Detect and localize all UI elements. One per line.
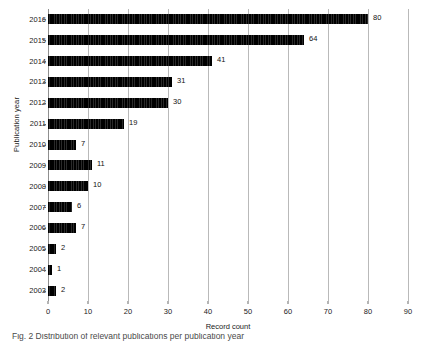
bar-row: 64	[48, 30, 408, 51]
bar-2008	[48, 181, 88, 191]
x-tick-mark-90	[408, 301, 409, 304]
y-tick-2010: 2010	[0, 134, 46, 155]
bar-row: 7	[48, 218, 408, 239]
x-tick-mark-70	[328, 301, 329, 304]
bar-2012	[48, 98, 168, 108]
bar-value-label-2015: 64	[309, 34, 317, 43]
bar-2004	[48, 265, 52, 275]
y-tick-mark-2016	[43, 19, 46, 20]
bar-row: 2	[48, 238, 408, 259]
bar-value-label-2012: 30	[173, 97, 181, 106]
bar-value-label-2006: 7	[81, 222, 85, 231]
gridline-90	[408, 9, 409, 301]
bar-value-label-2003: 2	[61, 285, 65, 294]
x-tick-mark-30	[168, 301, 169, 304]
bar-row: 1	[48, 259, 408, 280]
y-tick-mark-2011	[43, 124, 46, 125]
x-tick-90: 90	[404, 307, 412, 316]
y-tick-mark-2008	[43, 186, 46, 187]
figure-caption-text: Fig. 2 Distribution of relevant publicat…	[12, 333, 312, 341]
x-tick-20: 20	[124, 307, 132, 316]
bar-value-label-2010: 7	[81, 139, 85, 148]
bar-2010	[48, 140, 76, 150]
x-tick-30: 30	[164, 307, 172, 316]
y-tick-2011: 2011	[0, 113, 46, 134]
y-tick-2012: 2012	[0, 92, 46, 113]
y-tick-2014: 2014	[0, 51, 46, 72]
bar-2016	[48, 14, 368, 24]
bar-value-label-2004: 1	[57, 264, 61, 273]
x-tick-0: 0	[46, 307, 50, 316]
bar-row: 19	[48, 113, 408, 134]
bar-2015	[48, 35, 304, 45]
x-tick-mark-60	[288, 301, 289, 304]
y-tick-mark-2013	[43, 82, 46, 83]
bar-value-label-2007: 6	[77, 201, 81, 210]
bar-series: 8064413130197111067212	[48, 9, 408, 301]
x-tick-mark-50	[248, 301, 249, 304]
y-tick-mark-2004	[43, 270, 46, 271]
x-tick-10: 10	[84, 307, 92, 316]
x-tick-60: 60	[284, 307, 292, 316]
bar-2003	[48, 286, 56, 296]
bar-2007	[48, 202, 72, 212]
bar-value-label-2008: 10	[93, 180, 101, 189]
y-tick-mark-2009	[43, 165, 46, 166]
bar-2009	[48, 160, 92, 170]
bar-row: 80	[48, 9, 408, 30]
bar-row: 10	[48, 176, 408, 197]
y-tick-2004: 2004	[0, 259, 46, 280]
bar-row: 2	[48, 280, 408, 301]
figure-caption: Fig. 2 Distribution of relevant publicat…	[12, 333, 312, 341]
x-tick-mark-20	[128, 301, 129, 304]
bar-row: 7	[48, 134, 408, 155]
y-tick-2015: 2015	[0, 30, 46, 51]
x-tick-mark-0	[48, 301, 49, 304]
y-tick-2008: 2008	[0, 176, 46, 197]
y-tick-mark-2012	[43, 103, 46, 104]
y-tick-2003: 2003	[0, 280, 46, 301]
y-tick-mark-2003	[43, 291, 46, 292]
bar-row: 41	[48, 51, 408, 72]
plot-area: 8064413130197111067212	[48, 9, 408, 301]
y-tick-mark-2005	[43, 249, 46, 250]
y-tick-mark-2014	[43, 61, 46, 62]
bar-row: 6	[48, 197, 408, 218]
x-tick-mark-10	[88, 301, 89, 304]
x-tick-70: 70	[324, 307, 332, 316]
bar-value-label-2005: 2	[61, 243, 65, 252]
bar-value-label-2013: 31	[177, 76, 185, 85]
y-tick-2005: 2005	[0, 238, 46, 259]
bar-2013	[48, 77, 172, 87]
bar-row: 31	[48, 72, 408, 93]
bar-value-label-2009: 11	[97, 159, 105, 168]
y-tick-mark-2006	[43, 228, 46, 229]
bar-row: 11	[48, 155, 408, 176]
bar-2005	[48, 244, 56, 254]
bar-value-label-2016: 80	[373, 13, 381, 22]
x-tick-40: 40	[204, 307, 212, 316]
y-tick-2009: 2009	[0, 155, 46, 176]
y-tick-2007: 2007	[0, 197, 46, 218]
y-tick-mark-2007	[43, 207, 46, 208]
y-tick-2016: 2016	[0, 9, 46, 30]
bar-value-label-2011: 19	[129, 118, 137, 127]
x-axis-tick-labels: 0102030405060708090	[48, 301, 408, 317]
figure-bar-chart: Publication year 20162015201420132012201…	[0, 0, 431, 341]
y-tick-2013: 2013	[0, 72, 46, 93]
bar-row: 30	[48, 92, 408, 113]
bar-2006	[48, 223, 76, 233]
y-tick-mark-2015	[43, 40, 46, 41]
x-tick-80: 80	[364, 307, 372, 316]
y-axis-tick-labels: 2016201520142013201220112010200920082007…	[0, 9, 46, 301]
x-tick-50: 50	[244, 307, 252, 316]
y-tick-mark-2010	[43, 145, 46, 146]
bar-2011	[48, 119, 124, 129]
bar-2014	[48, 56, 212, 66]
x-tick-mark-80	[368, 301, 369, 304]
bar-value-label-2014: 41	[217, 55, 225, 64]
x-axis-title: Record count	[48, 322, 408, 331]
x-tick-mark-40	[208, 301, 209, 304]
y-tick-2006: 2006	[0, 218, 46, 239]
